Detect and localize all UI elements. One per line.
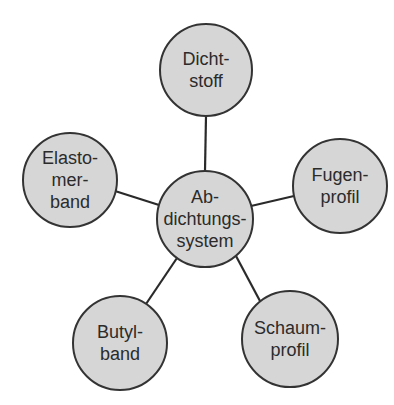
edge-schaumprofil [236,256,260,301]
node-dichtstoff-circle [160,24,252,116]
edge-butylband [146,258,177,304]
node-schaumprofil-circle [242,291,338,387]
node-fugenprofil-circle [293,139,387,233]
node-butylband-circle [73,296,167,390]
edge-elastomerband [115,191,159,205]
edge-fugenprofil [251,196,294,206]
mind-map-diagram [0,0,394,405]
edge-dichtstoff [205,116,206,171]
node-elastomerband-circle [23,133,117,227]
center-node-circle [157,171,253,267]
